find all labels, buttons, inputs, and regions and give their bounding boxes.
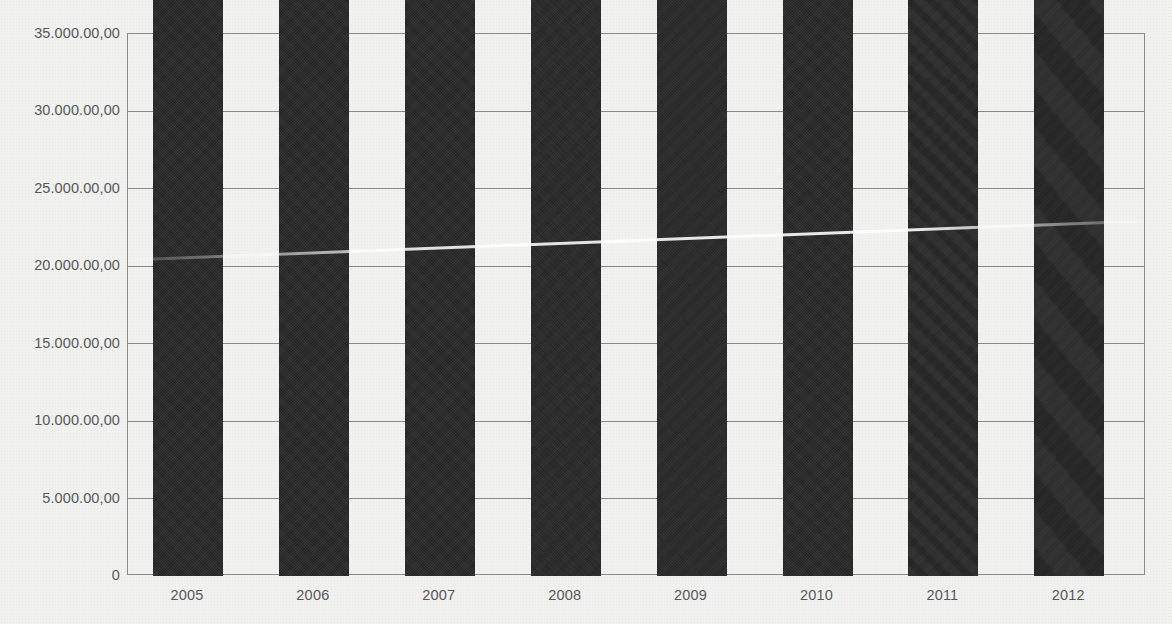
- bar[interactable]: [1034, 0, 1104, 576]
- x-tick-label: 2008: [505, 588, 625, 603]
- x-tick-label: 2007: [379, 588, 499, 603]
- x-tick-label: 2005: [127, 588, 247, 603]
- plot-area: [127, 33, 1145, 575]
- x-tick-label: 2006: [253, 588, 373, 603]
- x-tick-label: 2010: [757, 588, 877, 603]
- y-tick-label: 30.000.00,00: [34, 103, 120, 118]
- y-tick-label: 25.000.00,00: [34, 181, 120, 196]
- y-tick-label: 20.000.00,00: [34, 258, 120, 273]
- bar[interactable]: [783, 0, 853, 576]
- bar[interactable]: [908, 0, 978, 576]
- y-tick-label: 15.000.00,00: [34, 335, 120, 350]
- bar[interactable]: [279, 0, 349, 576]
- x-tick-label: 2012: [1008, 588, 1128, 603]
- y-tick-label: 5.000.00,00: [42, 490, 120, 505]
- x-tick-label: 2009: [631, 588, 751, 603]
- bar-chart: 05.000.00,0010.000.00,0015.000.00,0020.0…: [0, 0, 1172, 624]
- x-tick-label: 2011: [882, 588, 1002, 603]
- bar[interactable]: [153, 0, 223, 576]
- bar[interactable]: [405, 0, 475, 576]
- bar[interactable]: [531, 0, 601, 576]
- y-tick-label: 35.000.00,00: [34, 26, 120, 41]
- y-tick-label: 10.000.00,00: [34, 413, 120, 428]
- y-tick-label: 0: [112, 568, 120, 583]
- bar[interactable]: [657, 0, 727, 576]
